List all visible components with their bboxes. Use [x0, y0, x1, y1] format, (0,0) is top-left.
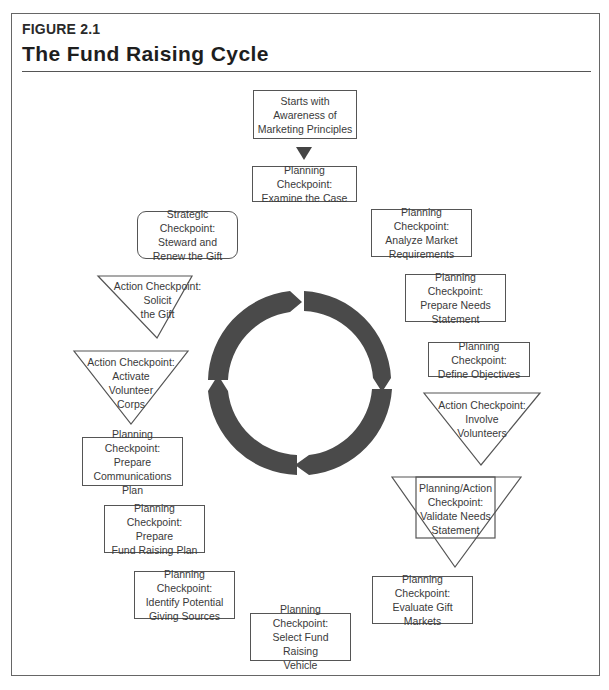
fund-raising-cycle-diagram: Starts with Awareness of Marketing Princ…: [0, 0, 609, 690]
cycle-arrow-bottom-left: [208, 375, 297, 475]
node-identify-giving-sources: Planning Checkpoint: Identify Potential …: [134, 571, 235, 619]
node-steward-renew-gift: Strategic Checkpoint: Steward and Renew …: [137, 211, 238, 259]
node-prepare-needs-statement: Planning Checkpoint: Prepare Needs State…: [405, 274, 506, 322]
node-activate-volunteer-corps: Action Checkpoint: Activate Volunteer Co…: [81, 355, 181, 411]
node-evaluate-gift-markets: Planning Checkpoint: Evaluate Gift Marke…: [372, 576, 473, 624]
node-start-marketing-principles: Starts with Awareness of Marketing Princ…: [253, 90, 357, 139]
node-prepare-fund-raising-plan: Planning Checkpoint: Prepare Fund Raisin…: [104, 505, 205, 553]
cycle-ring: [208, 291, 392, 475]
cycle-arrow-top-left: [208, 291, 302, 380]
cycle-arrow-bottom-right: [295, 389, 392, 475]
node-select-fund-raising-vehicle: Planning Checkpoint: Select Fund Raising…: [250, 613, 351, 661]
node-examine-the-case: Planning Checkpoint: Examine the Case: [252, 166, 357, 202]
node-prepare-communications-plan: Planning Checkpoint: Prepare Communicati…: [82, 437, 183, 486]
cycle-arrow-top-right: [304, 291, 391, 392]
node-define-objectives: Planning Checkpoint: Define Objectives: [428, 342, 530, 377]
start-down-arrow-icon: [296, 147, 312, 160]
node-solicit-gift: Action Checkpoint: Solicit the Gift: [110, 279, 205, 321]
node-involve-volunteers: Action Checkpoint: Involve Volunteers: [430, 398, 534, 440]
node-validate-needs-statement: Planning/Action Checkpoint: Validate Nee…: [416, 481, 495, 537]
node-analyze-market-requirements: Planning Checkpoint: Analyze Market Requ…: [371, 209, 472, 257]
